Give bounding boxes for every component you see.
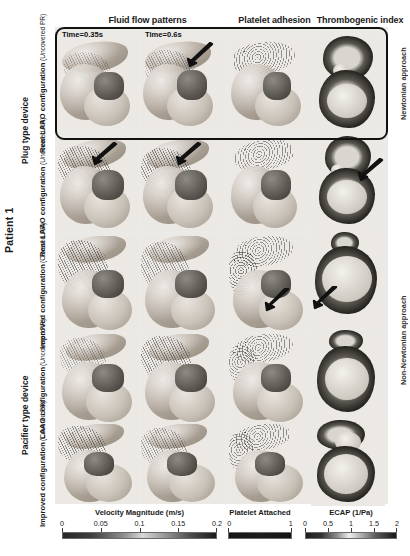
- column-header-fluid-flow: Fluid flow patterns: [60, 15, 235, 25]
- annotation-arrow: [260, 288, 290, 312]
- colorbar-gradient-platelet: [228, 532, 292, 539]
- panel-row1-platelet[interactable]: [229, 40, 309, 130]
- row-label-title: Improved configuration: [39, 442, 47, 527]
- annotation-arrow: [170, 142, 202, 166]
- row-label-subtitle: (Uncovered PR): [40, 14, 47, 61]
- tick-label: 0: [227, 519, 231, 528]
- time-label-0-35s: Time=0.35s: [62, 30, 103, 39]
- annotation-arrow: [86, 142, 118, 166]
- panel-row5-ecap[interactable]: [311, 420, 385, 506]
- tick-label: 0.5: [323, 519, 333, 528]
- tick-label: 0.05: [94, 519, 108, 528]
- panel-row2-platelet[interactable]: [229, 140, 309, 230]
- colorbar-title: ECAP (1/Pa): [305, 508, 397, 517]
- colorbar-ecap: ECAP (1/Pa) 0 0.5 1 1.5 2: [305, 508, 397, 542]
- colorbar-gradient-ecap: [305, 532, 397, 539]
- annotation-arrow: [308, 286, 338, 310]
- row-label-subtitle: (Uncovered PR): [40, 118, 47, 165]
- panel-row5-flow-t2[interactable]: [141, 424, 221, 504]
- column-header-thrombogenic-index: Thrombogenic index: [314, 15, 406, 25]
- tick-label: 0.15: [171, 519, 185, 528]
- device-group-label-pacifier: Pacifier type device: [18, 330, 32, 500]
- panel-row5-flow-t1[interactable]: [58, 424, 138, 504]
- tick-label: 0: [60, 519, 64, 528]
- colorbar-velocity-magnitude: Velocity Magnitude (m/s) 0 0.05 0.1 0.15…: [62, 508, 217, 542]
- colorbar-gradient-velocity: [62, 532, 217, 539]
- row-label-subtitle: (Covered PR): [40, 222, 47, 262]
- device-group-label-plug: Plug type device: [18, 30, 32, 230]
- panel-row3-flow-t1[interactable]: [58, 236, 138, 332]
- panel-row3-ecap[interactable]: [313, 232, 383, 328]
- panel-row3-flow-t2[interactable]: [141, 236, 221, 332]
- annotation-arrow: [352, 158, 384, 182]
- tick-label: 2: [395, 519, 399, 528]
- row-label-row2: Real LAAO configuration (Uncovered PR): [31, 140, 55, 235]
- panel-row1-flow-t1[interactable]: [58, 40, 138, 130]
- tick-label: 1: [289, 519, 293, 528]
- panel-row1-ecap[interactable]: [315, 34, 381, 134]
- tick-label: 0: [303, 519, 307, 528]
- panel-row5-platelet[interactable]: [229, 424, 309, 504]
- patient-label: Patient 1: [2, 170, 18, 290]
- tick-label: 0.1: [135, 519, 145, 528]
- figure-root: Patient 1 Plug type device Pacifier type…: [0, 0, 410, 556]
- row-label-subtitle: (Uncovered PR): [40, 319, 47, 366]
- tick-label: 1: [349, 519, 353, 528]
- tick-label: 1.5: [369, 519, 379, 528]
- row-label-row5: Improved configuration (Covered PR): [31, 424, 55, 504]
- column-header-platelet-adhesion: Platelet adhesion: [232, 15, 317, 25]
- colorbar-title: Platelet Attached: [228, 508, 292, 517]
- colorbar-platelet-attached: Platelet Attached 0 1: [228, 508, 292, 542]
- panel-row2-ecap[interactable]: [315, 136, 381, 232]
- colorbar-title: Velocity Magnitude (m/s): [62, 508, 217, 517]
- panel-row4-platelet[interactable]: [229, 334, 309, 424]
- annotation-arrow: [180, 42, 214, 68]
- approach-label-newtonian: Newtonian approach: [397, 30, 410, 138]
- panel-row4-ecap[interactable]: [313, 330, 383, 424]
- time-label-0-6s: Time=0.6s: [145, 30, 182, 39]
- panel-row4-flow-t1[interactable]: [58, 334, 138, 424]
- tick-label: 0.2: [212, 519, 222, 528]
- row-label-subtitle: (Covered PR): [40, 401, 47, 441]
- approach-label-non-newtonian: Non-Newtonian approach: [397, 190, 410, 490]
- panel-row4-flow-t2[interactable]: [141, 334, 221, 424]
- panel-row3-platelet[interactable]: [229, 236, 309, 332]
